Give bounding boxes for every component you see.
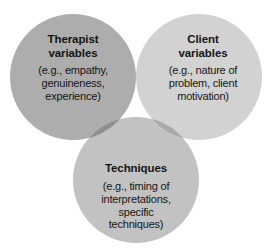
venn-diagram-figure: Therapistvariables (e.g., empathy,genuin… [0, 0, 273, 250]
venn-diagram-graphic [0, 0, 273, 250]
